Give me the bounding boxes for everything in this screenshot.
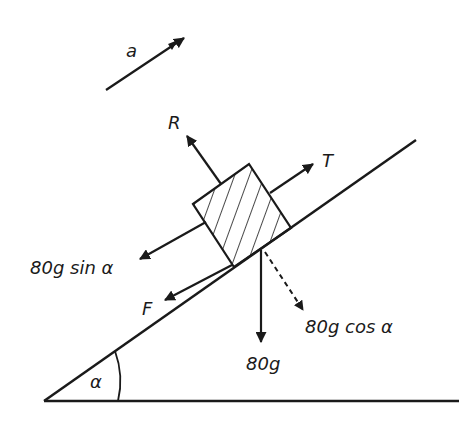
label-weight: 80g (246, 353, 280, 374)
label-sin-component: 80g sin α (30, 257, 114, 278)
diagram-canvas: a R T 80g sin α F 80g 80g cos α α (0, 0, 462, 425)
angle-arc (115, 351, 120, 401)
label-reaction: R (168, 112, 181, 133)
friction-line (165, 265, 232, 300)
label-friction: F (142, 298, 153, 319)
inclined-plane-diagram: a R T 80g sin α F 80g 80g cos α α (0, 0, 462, 425)
block (193, 164, 291, 267)
sin-component-line (140, 222, 206, 259)
label-angle: α (90, 371, 102, 392)
cos-component-arrow (265, 252, 303, 310)
tension-line (270, 164, 313, 193)
label-acceleration: a (126, 40, 137, 61)
label-cos-component: 80g cos α (305, 316, 393, 337)
acceleration-arrow (106, 38, 184, 90)
reaction-arrow (187, 136, 221, 184)
label-tension: T (322, 150, 335, 171)
